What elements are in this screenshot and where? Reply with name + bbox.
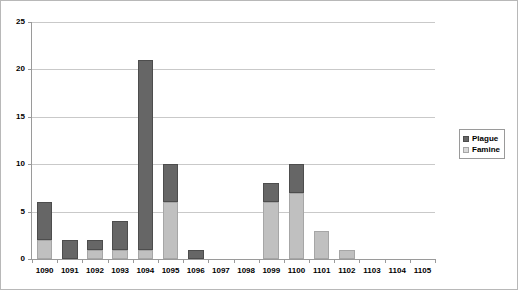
x-axis-tick-label: 1103 (363, 267, 380, 275)
x-axis-tick-label: 1097 (212, 267, 230, 275)
gridline (32, 22, 435, 23)
bar-segment-plague (87, 240, 103, 249)
legend-item-famine[interactable]: Famine (463, 144, 500, 155)
bar-segment-plague (188, 250, 204, 259)
x-axis-tick (385, 259, 386, 263)
bar-stack (188, 250, 204, 259)
x-axis-tick-label: 1098 (237, 267, 255, 275)
bar-segment-plague (37, 202, 53, 240)
x-axis-tick (208, 259, 209, 263)
bar-stack (314, 231, 330, 259)
y-axis-tick (28, 212, 32, 213)
x-axis-tick (410, 259, 411, 263)
x-axis-tick (234, 259, 235, 263)
y-axis-tick-label: 5 (21, 208, 25, 216)
x-axis-tick (32, 259, 33, 263)
x-axis-tick (284, 259, 285, 263)
x-axis-tick (259, 259, 260, 263)
x-axis-tick-label: 1090 (36, 267, 54, 275)
x-axis-tick-label: 1093 (111, 267, 129, 275)
x-axis-tick-label: 1092 (86, 267, 104, 275)
bar-segment-famine (112, 250, 128, 259)
x-axis-tick (309, 259, 310, 263)
bar-segment-famine (87, 250, 103, 259)
bar-stack (37, 202, 53, 259)
stacked-column-chart: 0510152025 10901091109210931094109510961… (0, 0, 519, 291)
legend-item-plague[interactable]: Plague (463, 133, 500, 144)
bar-segment-plague (289, 164, 305, 192)
x-axis-tick-label: 1099 (262, 267, 280, 275)
y-axis-tick (28, 69, 32, 70)
bar-stack (163, 164, 179, 259)
bar-segment-plague (112, 221, 128, 249)
y-axis-tick-label: 0 (21, 255, 25, 263)
x-axis-tick-label: 1096 (187, 267, 205, 275)
bar-segment-plague (263, 183, 279, 202)
bar-segment-famine (37, 240, 53, 259)
plot-area: 0510152025 10901091109210931094109510961… (31, 22, 435, 260)
gridline (32, 117, 435, 118)
x-axis-tick (359, 259, 360, 263)
bar-segment-famine (263, 202, 279, 259)
x-axis-tick (108, 259, 109, 263)
gridline (32, 212, 435, 213)
y-axis-tick-label: 10 (16, 160, 25, 168)
bar-segment-famine (339, 250, 355, 259)
x-axis-tick-label: 1101 (313, 267, 330, 275)
gridline (32, 164, 435, 165)
x-axis-tick-label: 1091 (61, 267, 79, 275)
bar-stack (339, 250, 355, 259)
x-axis-tick-label: 1094 (136, 267, 154, 275)
bar-stack (263, 183, 279, 259)
y-axis-tick-label: 15 (16, 113, 25, 121)
x-axis-tick-label: 1105 (414, 267, 431, 275)
bar-segment-plague (62, 240, 78, 259)
bar-segment-famine (314, 231, 330, 259)
x-axis-tick-label: 1104 (389, 267, 406, 275)
x-axis-tick-label: 1102 (338, 267, 355, 275)
bar-stack (112, 221, 128, 259)
bar-segment-famine (163, 202, 179, 259)
x-axis-tick-label: 1095 (162, 267, 180, 275)
bar-stack (62, 240, 78, 259)
x-axis-tick (133, 259, 134, 263)
y-axis-tick-label: 20 (16, 65, 25, 73)
legend-item-label: Famine (472, 146, 500, 154)
x-axis-tick (183, 259, 184, 263)
y-axis-tick (28, 117, 32, 118)
bar-stack (138, 60, 154, 259)
bar-segment-plague (138, 60, 154, 250)
y-axis-tick-label: 25 (16, 18, 25, 26)
plague-swatch-icon (463, 136, 469, 142)
y-axis-tick (28, 22, 32, 23)
x-axis-tick (435, 259, 436, 263)
bar-segment-plague (163, 164, 179, 202)
x-axis-tick (82, 259, 83, 263)
bar-stack (87, 240, 103, 259)
legend-item-label: Plague (472, 135, 498, 143)
bar-segment-famine (138, 250, 154, 259)
y-axis-tick (28, 164, 32, 165)
x-axis-tick (57, 259, 58, 263)
bar-stack (289, 164, 305, 259)
bar-segment-famine (289, 193, 305, 259)
famine-swatch-icon (463, 147, 469, 153)
chart-legend: PlagueFamine (459, 129, 505, 159)
gridline (32, 69, 435, 70)
x-axis-tick (334, 259, 335, 263)
x-axis-tick (158, 259, 159, 263)
x-axis-tick-label: 1100 (288, 267, 305, 275)
